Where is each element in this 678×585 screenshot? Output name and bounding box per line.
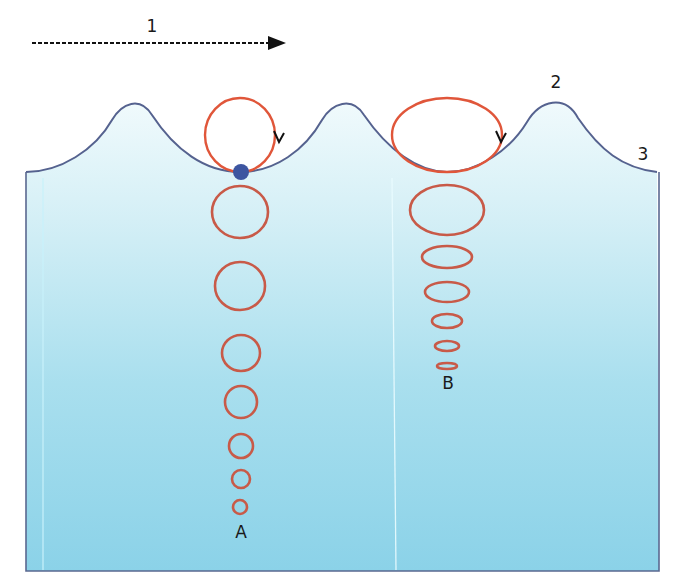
label-column-a: A — [235, 522, 247, 542]
label-column-b: B — [442, 373, 454, 393]
water-body — [26, 103, 659, 571]
water-particle — [233, 164, 249, 180]
wave-orbit-diagram: 1 2 3 A B — [0, 0, 678, 585]
arrow-head-icon — [268, 36, 286, 50]
orbit-ellipse — [392, 98, 502, 172]
orbit-ellipse — [205, 98, 275, 172]
label-trough: 3 — [638, 144, 649, 164]
propagation-arrow — [32, 36, 286, 50]
label-crest: 2 — [551, 72, 562, 92]
label-direction: 1 — [147, 16, 158, 36]
